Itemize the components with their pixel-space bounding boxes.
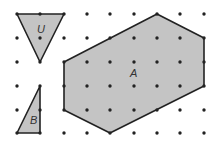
grid-dot: [132, 108, 135, 111]
grid-dot: [38, 84, 41, 87]
grid-dot: [15, 108, 18, 111]
grid-dot: [132, 84, 135, 87]
grid-dot: [155, 12, 158, 15]
grid-dot: [15, 12, 18, 15]
grid-dot: [155, 36, 158, 39]
shapes-layer: [17, 14, 204, 133]
grid-dot: [108, 12, 111, 15]
grid-dot: [85, 36, 88, 39]
shape-label-u: U: [37, 23, 45, 35]
grid-dot: [202, 84, 205, 87]
grid-dot: [85, 84, 88, 87]
grid-dot: [62, 12, 65, 15]
grid-dot: [178, 12, 181, 15]
grid-dot: [38, 108, 41, 111]
grid-dot: [62, 60, 65, 63]
grid-dot: [132, 12, 135, 15]
grid-dot: [108, 60, 111, 63]
grid-dot: [202, 36, 205, 39]
diagram-canvas: UBA: [0, 0, 216, 141]
grid-dot: [62, 36, 65, 39]
grid-dot: [202, 12, 205, 15]
shape-label-b: B: [30, 114, 37, 126]
grid-dot: [132, 60, 135, 63]
grid-dot: [155, 84, 158, 87]
grid-dot: [85, 60, 88, 63]
grid-dot: [132, 131, 135, 134]
grid-dot: [38, 36, 41, 39]
grid-dot: [38, 60, 41, 63]
grid-dot: [155, 60, 158, 63]
grid-dot: [178, 36, 181, 39]
grid-dot: [108, 36, 111, 39]
grid-dot: [15, 36, 18, 39]
grid-dot: [178, 108, 181, 111]
dot-grid-diagram: UBA Dot grid with shapes U, B and A: [0, 0, 216, 141]
grid-dot: [155, 131, 158, 134]
grid-dot: [15, 60, 18, 63]
grid-dot: [85, 131, 88, 134]
grid-dot: [202, 131, 205, 134]
grid-dot: [178, 84, 181, 87]
grid-dot: [178, 60, 181, 63]
grid-dot: [108, 131, 111, 134]
grid-dot: [85, 108, 88, 111]
shape-label-a: A: [129, 67, 137, 79]
grid-dot: [202, 60, 205, 63]
grid-dot: [62, 84, 65, 87]
grid-dot: [178, 131, 181, 134]
grid-dot: [38, 12, 41, 15]
grid-dot: [85, 12, 88, 15]
grid-dot: [132, 36, 135, 39]
grid-dot: [62, 108, 65, 111]
grid-dot: [108, 84, 111, 87]
grid-dot: [155, 108, 158, 111]
grid-dot: [202, 108, 205, 111]
grid-dot: [15, 131, 18, 134]
grid-dot: [108, 108, 111, 111]
grid-dot: [15, 84, 18, 87]
grid-dot: [62, 131, 65, 134]
grid-dot: [38, 131, 41, 134]
